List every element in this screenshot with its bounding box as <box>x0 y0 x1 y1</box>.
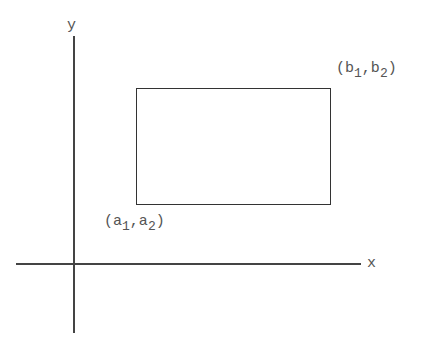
upper-right-corner-label: (b1,b2) <box>336 61 397 76</box>
coord-1: a <box>113 213 122 230</box>
coord-1-subscript: 1 <box>354 66 362 81</box>
coord-1: b <box>345 60 354 77</box>
x-axis-label: x <box>367 256 376 271</box>
separator: , <box>130 213 139 230</box>
paren-open: ( <box>336 60 345 77</box>
coord-2-subscript: 2 <box>380 66 388 81</box>
y-axis <box>73 36 75 333</box>
paren-close: ) <box>156 213 165 230</box>
coord-1-subscript: 1 <box>122 219 130 234</box>
paren-close: ) <box>388 60 397 77</box>
rectangle <box>136 88 331 205</box>
lower-left-corner-label: (a1,a2) <box>104 214 165 229</box>
separator: , <box>362 60 371 77</box>
y-axis-label: y <box>67 18 76 33</box>
paren-open: ( <box>104 213 113 230</box>
coord-2-subscript: 2 <box>148 219 156 234</box>
x-axis <box>16 263 361 265</box>
coord-2: b <box>371 60 380 77</box>
coord-2: a <box>139 213 148 230</box>
